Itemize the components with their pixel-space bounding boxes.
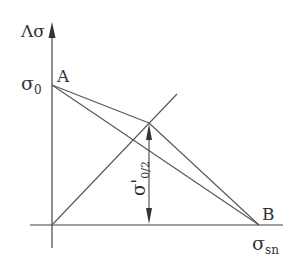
y-axis-label: Λσ xyxy=(20,21,45,41)
line-p-to-b xyxy=(149,123,259,225)
sigma-0-label: σ0 xyxy=(21,72,42,97)
arrow-up-icon xyxy=(146,124,152,140)
line-a-to-b xyxy=(52,85,259,225)
y-axis xyxy=(49,22,56,248)
stress-diagram: Λσ σ0 A B σsn σ'0/2 xyxy=(0,0,298,261)
sigma-0-main: σ xyxy=(21,72,34,94)
sigma-0-sub: 0 xyxy=(34,83,42,97)
sigma-sn-label: σsn xyxy=(252,232,279,257)
sigma-prime-half-label: σ'0/2 xyxy=(128,161,152,196)
sigma-sn-sub: sn xyxy=(265,243,279,257)
point-a-label: A xyxy=(56,66,70,86)
diagonal-line xyxy=(52,94,177,225)
arrow-down-icon xyxy=(146,208,152,224)
point-b-label: B xyxy=(262,204,275,224)
sigma-sn-main: σ xyxy=(252,232,265,254)
sigma-prime-sub: 0/2 xyxy=(139,161,152,179)
sigma-prime-main: σ' xyxy=(128,179,149,196)
y-axis-arrow-icon xyxy=(49,22,56,38)
